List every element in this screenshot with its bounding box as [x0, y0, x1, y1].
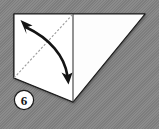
origami-diagram-figure: Origami fold step diagram 6	[0, 0, 159, 129]
left-flap-polygon	[14, 14, 73, 102]
step-number-label: 6	[21, 93, 28, 108]
origami-diagram-canvas: Origami fold step diagram 6	[0, 0, 159, 129]
